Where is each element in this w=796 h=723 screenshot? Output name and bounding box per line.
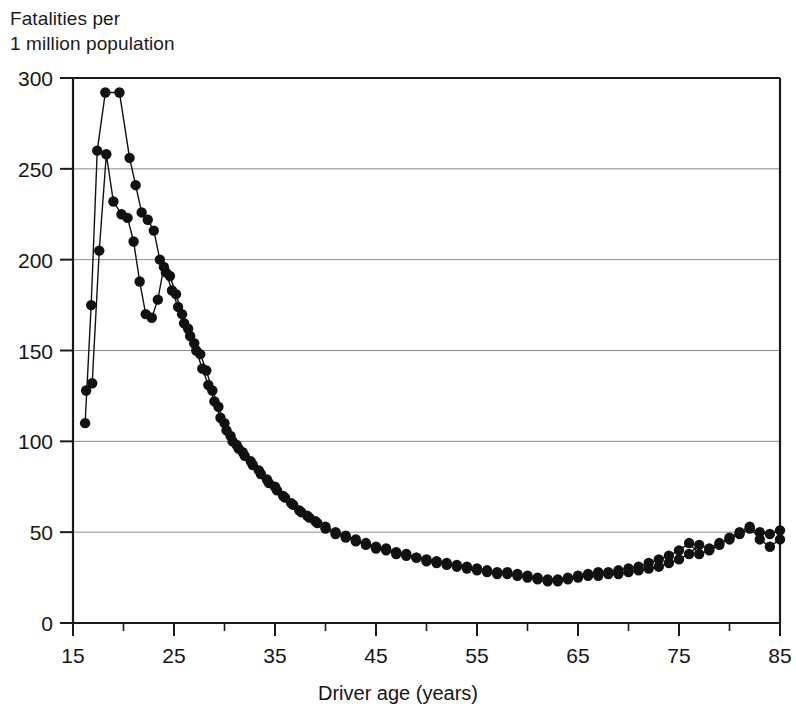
y-tick-label: 50 xyxy=(30,521,53,544)
data-point xyxy=(195,349,205,359)
fatalities-by-driver-age-chart: Fatalities per 1 million population 0501… xyxy=(0,0,796,723)
data-point xyxy=(724,532,734,542)
data-point xyxy=(371,542,381,552)
data-point xyxy=(563,572,573,582)
data-point xyxy=(237,447,247,457)
data-point xyxy=(401,549,411,559)
x-axis-label: Driver age (years) xyxy=(318,682,478,704)
plot-canvas: 050100150200250300 1525354555657585 Driv… xyxy=(0,0,796,723)
data-point xyxy=(694,540,704,550)
data-point xyxy=(330,527,340,537)
data-point xyxy=(177,309,187,319)
data-point xyxy=(442,558,452,568)
data-point xyxy=(684,549,694,559)
data-point xyxy=(755,534,765,544)
data-point xyxy=(431,556,441,566)
data-point xyxy=(270,482,280,492)
data-point xyxy=(674,554,684,564)
data-point xyxy=(502,567,512,577)
y-tick-label: 300 xyxy=(18,67,53,90)
data-point xyxy=(734,527,744,537)
data-point xyxy=(765,529,775,539)
data-point xyxy=(482,565,492,575)
data-point xyxy=(573,571,583,581)
x-axis-tick-labels: 1525354555657585 xyxy=(61,644,791,667)
data-point xyxy=(633,561,643,571)
data-point xyxy=(644,558,654,568)
data-point xyxy=(654,554,664,564)
y-axis-tick-labels: 050100150200250300 xyxy=(18,67,53,635)
x-tick-label: 15 xyxy=(61,644,84,667)
data-point xyxy=(207,385,217,395)
data-point xyxy=(114,87,124,97)
x-tick-label: 45 xyxy=(364,644,387,667)
x-tick-label: 85 xyxy=(768,644,791,667)
data-point xyxy=(714,540,724,550)
data-point xyxy=(86,300,96,310)
data-point xyxy=(310,516,320,526)
data-point xyxy=(108,196,118,206)
data-point xyxy=(128,236,138,246)
series-points xyxy=(80,87,785,586)
data-point xyxy=(603,567,613,577)
y-tick-label: 0 xyxy=(41,612,53,635)
data-point xyxy=(341,531,351,541)
data-point xyxy=(543,574,553,584)
data-point xyxy=(492,567,502,577)
data-point xyxy=(159,262,169,272)
data-point xyxy=(664,551,674,561)
data-point xyxy=(745,522,755,532)
data-point xyxy=(391,547,401,557)
data-point xyxy=(286,498,296,508)
data-point xyxy=(134,276,144,286)
data-point xyxy=(583,569,593,579)
data-point xyxy=(153,294,163,304)
data-point xyxy=(411,552,421,562)
data-point xyxy=(704,545,714,555)
data-point xyxy=(147,313,157,323)
y-tick-label: 100 xyxy=(18,430,53,453)
data-point xyxy=(254,465,264,475)
data-point xyxy=(553,574,563,584)
data-point xyxy=(213,402,223,412)
data-point xyxy=(171,289,181,299)
y-tick-label: 200 xyxy=(18,249,53,272)
x-tick-label: 35 xyxy=(263,644,286,667)
data-point xyxy=(593,567,603,577)
data-point xyxy=(124,153,134,163)
data-point xyxy=(765,542,775,552)
data-point xyxy=(674,545,684,555)
data-point xyxy=(512,569,522,579)
data-point xyxy=(149,225,159,235)
data-point xyxy=(225,431,235,441)
data-point xyxy=(623,563,633,573)
data-point xyxy=(246,456,256,466)
data-point xyxy=(361,538,371,548)
data-point xyxy=(613,565,623,575)
data-point xyxy=(775,525,785,535)
data-point xyxy=(87,378,97,388)
data-point xyxy=(183,324,193,334)
data-point xyxy=(101,149,111,159)
data-point xyxy=(421,554,431,564)
data-point xyxy=(684,538,694,548)
data-point xyxy=(122,213,132,223)
data-point xyxy=(775,534,785,544)
data-point xyxy=(143,215,153,225)
data-point xyxy=(472,563,482,573)
data-point xyxy=(100,87,110,97)
data-point xyxy=(262,474,272,484)
data-point xyxy=(320,522,330,532)
data-point xyxy=(219,418,229,428)
data-point xyxy=(462,561,472,571)
data-point xyxy=(165,271,175,281)
y-tick-label: 150 xyxy=(18,340,53,363)
data-point xyxy=(94,245,104,255)
x-tick-label: 65 xyxy=(566,644,589,667)
y-axis-ticks xyxy=(60,78,73,623)
data-point xyxy=(80,418,90,428)
data-point xyxy=(201,365,211,375)
data-point xyxy=(92,145,102,155)
x-tick-label: 75 xyxy=(667,644,690,667)
x-tick-label: 55 xyxy=(465,644,488,667)
